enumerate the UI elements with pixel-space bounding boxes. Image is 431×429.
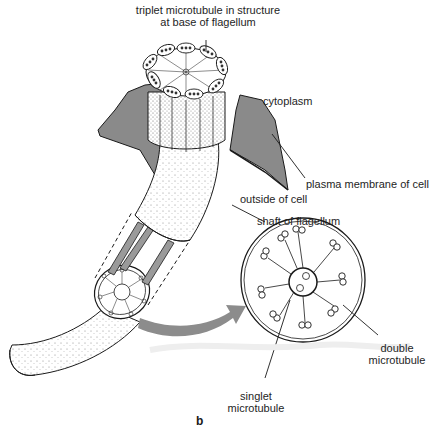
axoneme-cross-section (241, 218, 365, 342)
label-triplet-line1: triplet microtubule in structure (128, 4, 288, 16)
label-triplet-microtubule: triplet microtubule in structure at base… (128, 4, 288, 28)
plasma-membrane-right (230, 95, 288, 190)
label-singlet-line2: microtubule (226, 402, 286, 414)
label-singlet-microtubule: singlet microtubule (226, 390, 286, 414)
panel-label: b (196, 414, 203, 428)
label-cytoplasm: cytoplasm (263, 95, 313, 107)
label-outside-of-cell: outside of cell (240, 193, 307, 205)
singlet-microtubule-shape (297, 285, 304, 292)
label-double-microtubule: double microtubule (362, 342, 431, 366)
flagellum-diagram: triplet microtubule in structure at base… (0, 0, 431, 429)
label-double-line1: double (362, 342, 431, 354)
label-singlet-line1: singlet (226, 390, 286, 402)
magnify-arrow (138, 305, 246, 336)
label-shaft-of-flagellum: shaft of flagellum (257, 215, 340, 227)
basal-body (140, 42, 229, 152)
label-double-line2: microtubule (362, 354, 431, 366)
label-triplet-line2: at base of flagellum (128, 16, 288, 28)
label-plasma-membrane: plasma membrane of cell (306, 178, 429, 190)
